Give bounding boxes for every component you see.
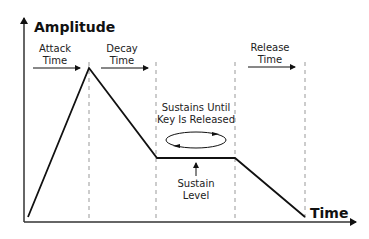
y-axis-label: Amplitude: [34, 19, 115, 35]
sustain-level-line1: Sustain: [177, 178, 214, 189]
envelope-curve: [28, 68, 305, 217]
sustain-note-line1: Sustains Until: [162, 102, 231, 113]
sustain-note-line2: Key Is Released: [157, 114, 235, 125]
release-label-line2: Time: [257, 54, 282, 65]
attack-label-line1: Attack: [39, 43, 71, 54]
loop-arrow-icon: [166, 132, 226, 148]
release-label-line1: Release: [250, 42, 289, 53]
sustain-level-line2: Level: [183, 190, 209, 201]
adsr-envelope-diagram: Amplitude Time Attack Time Decay Time Re…: [0, 0, 369, 239]
attack-label-line2: Time: [42, 55, 67, 66]
x-axis-label: Time: [310, 205, 348, 221]
decay-label-line1: Decay: [106, 43, 137, 54]
decay-label-line2: Time: [109, 55, 134, 66]
